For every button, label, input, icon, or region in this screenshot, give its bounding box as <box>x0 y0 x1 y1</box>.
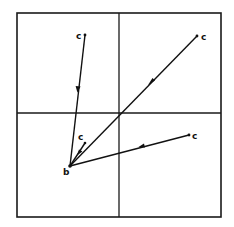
arrowhead-icon <box>148 78 155 85</box>
endpoint-label: c <box>201 32 206 42</box>
quadrant-vector-diagram: c c c c b <box>0 0 234 227</box>
endpoint-label: c <box>192 131 197 141</box>
vector-right: c <box>70 131 197 166</box>
vector-line <box>70 36 197 166</box>
endpoint-label: c <box>76 31 81 41</box>
vector-upper-right: c <box>70 32 206 166</box>
endpoint-dot <box>196 35 199 38</box>
origin-label: b <box>63 167 70 177</box>
vector-line <box>70 135 189 166</box>
arrowhead-icon <box>139 144 146 148</box>
endpoint-dot <box>84 34 87 37</box>
endpoint-label: c <box>78 132 83 142</box>
endpoint-dot <box>84 142 87 145</box>
endpoint-dot <box>188 134 191 137</box>
